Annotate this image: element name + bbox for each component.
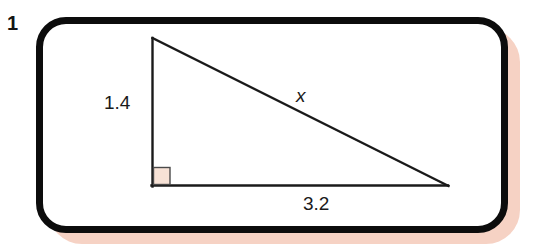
label-hypotenuse: x [296,86,306,105]
label-vertical-side: 1.4 [104,93,130,112]
label-bottom-side: 3.2 [303,194,329,213]
worksheet-figure: 1 1.4 3.2 x [0,0,537,249]
question-number: 1 [7,13,18,33]
problem-box [36,17,508,233]
